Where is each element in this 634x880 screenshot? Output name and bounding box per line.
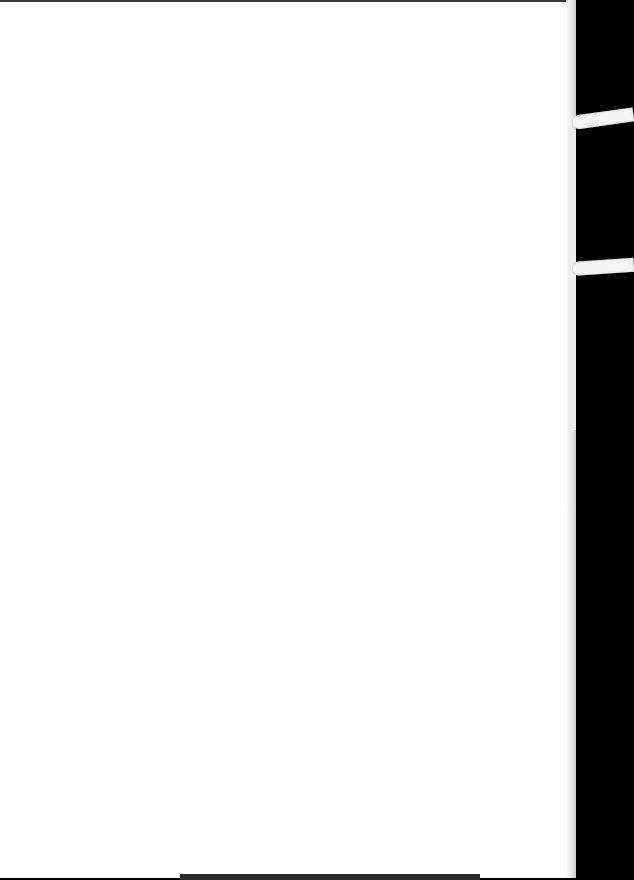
paper-tab-lower — [572, 258, 634, 276]
binding-spine — [568, 130, 576, 430]
paper-tab-upper — [571, 107, 634, 129]
bottom-shadow — [180, 874, 480, 880]
scanned-page — [0, 0, 575, 878]
